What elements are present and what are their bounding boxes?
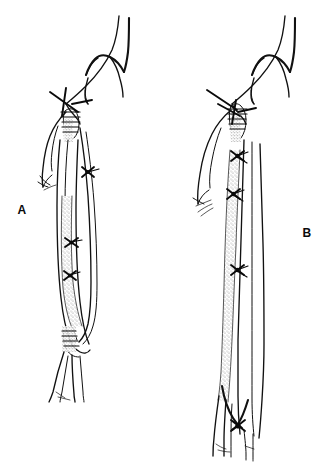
panel-label-b: B <box>303 226 312 240</box>
figure-root: A <box>0 0 331 463</box>
panel-label-a: A <box>18 203 27 217</box>
surgical-illustration: A <box>0 0 331 463</box>
figure-background <box>0 0 331 463</box>
